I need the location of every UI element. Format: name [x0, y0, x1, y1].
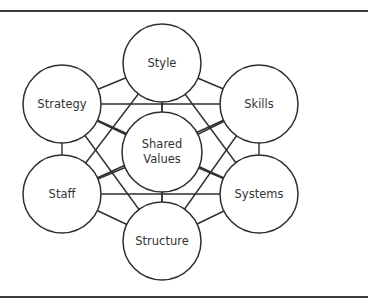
- element-nodes: StyleStrategySkillsSharedValuesStaffSyst…: [23, 24, 298, 280]
- node-label: Systems: [235, 187, 284, 201]
- mckinsey-7s-diagram: StyleStrategySkillsSharedValuesStaffSyst…: [0, 0, 368, 301]
- node-style: Style: [123, 24, 201, 102]
- node-label: Style: [148, 56, 177, 70]
- node-label: Values: [143, 152, 181, 166]
- node-label: Skills: [244, 97, 274, 111]
- node-staff: Staff: [23, 155, 101, 233]
- node-skills: Skills: [220, 65, 298, 143]
- node-shared-values: SharedValues: [122, 112, 202, 192]
- node-label: Structure: [135, 234, 189, 248]
- node-label: Shared: [142, 137, 183, 151]
- node-structure: Structure: [123, 202, 201, 280]
- node-label: Strategy: [37, 97, 86, 111]
- node-strategy: Strategy: [23, 65, 101, 143]
- node-label: Staff: [49, 187, 77, 201]
- node-systems: Systems: [220, 155, 298, 233]
